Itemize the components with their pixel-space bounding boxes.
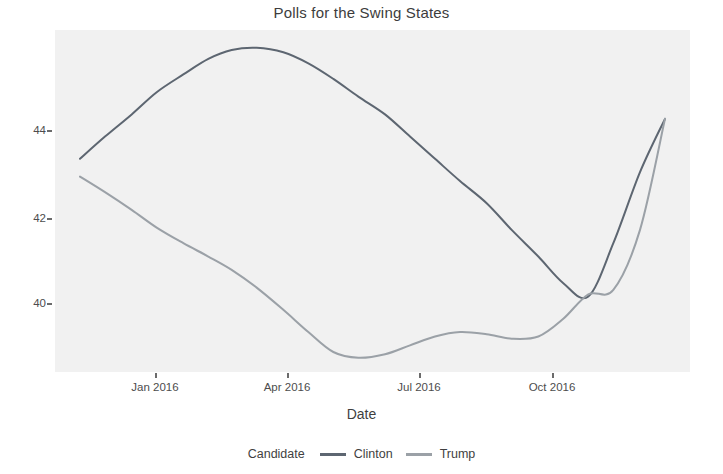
y-tick-mark-44 [47, 130, 52, 132]
x-tick-mark-jul [419, 373, 421, 378]
plot-panel [55, 30, 690, 372]
legend-entry-clinton[interactable]: Clinton [320, 447, 393, 461]
y-tick-mark-42 [47, 218, 52, 220]
plot-lines [55, 30, 690, 372]
y-tick-mark-40 [47, 303, 52, 305]
x-tick-mark-oct [552, 373, 554, 378]
legend-label-trump: Trump [440, 447, 476, 461]
line-series-clinton [80, 48, 665, 299]
chart-root: Polls for the Swing States 44 42 40 Jan … [0, 0, 723, 474]
legend-title: Candidate [248, 447, 305, 461]
y-tick-label-42: 42 [8, 212, 46, 224]
legend-entry-trump[interactable]: Trump [406, 447, 476, 461]
y-tick-label-44: 44 [8, 124, 46, 136]
chart-legend: Candidate Clinton Trump [0, 447, 723, 461]
x-tick-label-oct: Oct 2016 [510, 381, 594, 393]
x-tick-label-jan: Jan 2016 [113, 381, 197, 393]
chart-title: Polls for the Swing States [0, 4, 723, 21]
x-tick-label-jul: Jul 2016 [377, 381, 461, 393]
legend-swatch-clinton [320, 453, 346, 456]
x-tick-mark-jan [155, 373, 157, 378]
line-series-trump [80, 119, 665, 358]
y-tick-label-40: 40 [8, 297, 46, 309]
x-axis-title: Date [0, 406, 723, 422]
x-tick-mark-apr [287, 373, 289, 378]
legend-label-clinton: Clinton [354, 447, 393, 461]
legend-swatch-trump [406, 453, 432, 456]
x-tick-label-apr: Apr 2016 [245, 381, 329, 393]
